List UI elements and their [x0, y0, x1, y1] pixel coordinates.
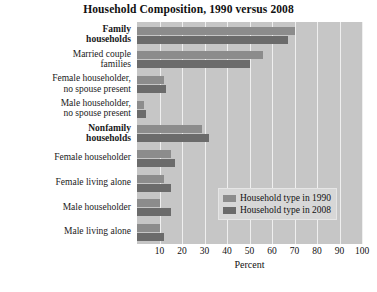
x-axis-tick-40: 40 — [222, 246, 232, 256]
y-axis-label-line: Female householder — [0, 152, 131, 163]
bar-group — [137, 121, 362, 146]
bar — [137, 36, 288, 44]
bar-group — [137, 47, 362, 72]
x-axis-tick-90: 90 — [335, 246, 345, 256]
legend-swatch-icon — [223, 207, 236, 214]
bar — [137, 184, 171, 192]
y-axis-label: Nonfamilyhouseholds — [0, 123, 133, 144]
legend-label: Household type in 2008 — [240, 205, 331, 215]
y-axis-label-line: Married couple — [0, 49, 131, 60]
bar — [137, 110, 146, 118]
bar — [137, 175, 164, 183]
legend-item: Household type in 1990 — [223, 192, 331, 204]
y-axis-label-line: Male living alone — [0, 226, 131, 237]
x-axis-tick-30: 30 — [200, 246, 210, 256]
x-axis-tick-50: 50 — [245, 246, 255, 256]
bar — [137, 76, 164, 84]
bar — [137, 51, 263, 59]
x-axis-tick-70: 70 — [290, 246, 300, 256]
bar — [137, 85, 166, 93]
x-axis-tick-100: 100 — [355, 246, 369, 256]
y-axis-label: Familyhouseholds — [0, 24, 133, 45]
y-axis-label: Married couplefamilies — [0, 49, 133, 70]
bar — [137, 208, 171, 216]
y-axis-label: Male living alone — [0, 226, 133, 237]
x-axis-title: Percent — [137, 259, 362, 270]
bar — [137, 101, 144, 109]
y-axis-label: Female householder — [0, 152, 133, 163]
legend-swatch-icon — [223, 195, 236, 202]
legend-label: Household type in 1990 — [240, 193, 331, 203]
bar-group — [137, 22, 362, 47]
x-axis-tick-20: 20 — [177, 246, 187, 256]
bar — [137, 27, 295, 35]
y-axis-label-line: Family — [0, 24, 131, 35]
gridline-100 — [362, 22, 363, 244]
bar — [137, 150, 171, 158]
bar — [137, 233, 164, 241]
y-axis-label-line: households — [0, 133, 131, 144]
bar-group — [137, 96, 362, 121]
chart-figure: Household Composition, 1990 versus 2008 … — [0, 0, 377, 292]
y-axis-labels: FamilyhouseholdsMarried couplefamiliesFe… — [0, 22, 133, 244]
y-axis-label-line: households — [0, 34, 131, 45]
y-axis-label-line: Nonfamily — [0, 123, 131, 134]
y-axis-label-line: families — [0, 59, 131, 70]
page-title: Household Composition, 1990 versus 2008 — [0, 3, 377, 15]
bar-group — [137, 219, 362, 244]
y-axis-label: Male householder,no spouse present — [0, 98, 133, 119]
bar — [137, 159, 175, 167]
bar — [137, 60, 250, 68]
y-axis-label: Female householder,no spouse present — [0, 73, 133, 94]
x-axis-tick-10: 10 — [155, 246, 165, 256]
y-axis-label: Male householder — [0, 202, 133, 213]
x-axis-tick-60: 60 — [267, 246, 277, 256]
y-axis-label-line: Male householder, — [0, 98, 131, 109]
legend-item: Household type in 2008 — [223, 204, 331, 216]
x-axis-tick-80: 80 — [312, 246, 322, 256]
bar — [137, 125, 202, 133]
bar — [137, 224, 160, 232]
x-axis-ticks: 102030405060708090100 — [137, 246, 362, 260]
bar — [137, 199, 160, 207]
bar-group — [137, 71, 362, 96]
chart-legend: Household type in 1990Household type in … — [218, 188, 337, 220]
y-axis-label-line: Female householder, — [0, 73, 131, 84]
y-axis-label: Female living alone — [0, 177, 133, 188]
y-axis-label-line: no spouse present — [0, 84, 131, 95]
y-axis-label-line: Female living alone — [0, 177, 131, 188]
bar-group — [137, 145, 362, 170]
y-axis-label-line: no spouse present — [0, 108, 131, 119]
bar — [137, 134, 209, 142]
y-axis-label-line: Male householder — [0, 202, 131, 213]
